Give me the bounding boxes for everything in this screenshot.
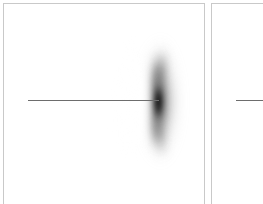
blob-halo	[135, 37, 187, 165]
left-panel-marker-line[interactable]	[28, 100, 159, 101]
crescent-blob	[133, 37, 189, 165]
left-panel-border-top	[3, 3, 205, 4]
blob-horn-bottom	[144, 110, 173, 163]
left-panel-border-left	[3, 3, 4, 204]
blob-concave-mask	[115, 41, 151, 161]
blob-core	[152, 81, 165, 123]
right-panel-marker-line[interactable]	[236, 100, 263, 101]
right-panel-border-top	[211, 3, 263, 4]
left-panel-border-right	[204, 3, 205, 204]
right-panel-border-left	[211, 3, 212, 204]
blob-arc	[145, 49, 175, 153]
right-panel[interactable]	[211, 3, 263, 204]
blob-horn-top	[147, 44, 173, 94]
figure-canvas	[0, 0, 263, 204]
left-panel[interactable]	[3, 3, 205, 204]
